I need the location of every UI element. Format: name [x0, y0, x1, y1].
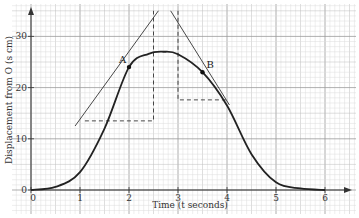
y-axis-label: Displacement from O (s cm): [4, 36, 14, 164]
x-tick-label: 5: [273, 193, 279, 203]
tangent-line-a: [75, 11, 158, 126]
point-a-marker: [127, 65, 131, 69]
y-tick-label: 20: [16, 83, 28, 93]
y-tick-label: 10: [16, 134, 28, 144]
x-tick-label: 1: [77, 193, 83, 203]
y-tick-label: 0: [21, 185, 27, 195]
x-axis-arrow-icon: [344, 187, 352, 193]
point-b-marker: [200, 70, 204, 74]
point-a-label: A: [118, 54, 127, 65]
x-tick-label: 2: [126, 193, 132, 203]
y-tick-label: 30: [16, 31, 28, 41]
point-b-label: B: [207, 59, 214, 70]
axis-ticks: 01234560102030: [16, 31, 329, 203]
graph-paper-grid: [12, 4, 356, 214]
x-tick-label: 0: [30, 193, 36, 203]
displacement-time-chart: 01234560102030 AB Time (t seconds) Displ…: [0, 0, 359, 218]
x-tick-label: 6: [322, 193, 328, 203]
tangent-line-b: [171, 11, 230, 105]
x-axis-label: Time (t seconds): [152, 200, 228, 210]
